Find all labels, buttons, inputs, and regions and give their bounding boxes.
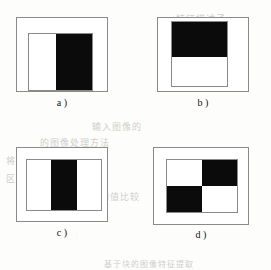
figure-panel-group: 特征描述子 输入图像的 的图像处理方法 将图像分割成若干个 区域的灰度值与 均值… <box>0 0 271 270</box>
panel-c-cell-centre-black <box>51 160 76 210</box>
panel-d: d ) <box>136 135 271 270</box>
panel-d-cell-bottom-right-white <box>202 186 237 212</box>
panel-c-label: c ) <box>16 227 108 238</box>
panel-a-cell-right-black <box>56 34 92 90</box>
panel-d-label: d ) <box>153 229 249 240</box>
panel-c-cell-left-white <box>27 160 51 210</box>
panel-b-cell-top-black <box>172 22 227 57</box>
panel-c-inner-pattern <box>26 159 102 211</box>
panel-c: c ) <box>0 135 136 270</box>
panel-d-cell-bottom-left-black <box>167 186 202 212</box>
panel-c-cell-right-white <box>77 160 101 210</box>
panel-b-label: b ) <box>157 97 249 108</box>
panel-d-cell-top-left-white <box>167 160 202 186</box>
panel-a-inner-pattern <box>28 33 93 91</box>
panel-b-cell-bottom-white <box>172 57 227 86</box>
panel-d-cell-top-right-black <box>202 160 237 186</box>
panel-d-inner-pattern <box>166 159 238 213</box>
panel-a-cell-left-white <box>29 34 56 90</box>
panel-b: b ) <box>136 0 271 135</box>
panel-a-label: a ) <box>16 97 108 108</box>
panel-a: a ) <box>0 0 136 135</box>
panel-b-inner-pattern <box>171 21 228 87</box>
